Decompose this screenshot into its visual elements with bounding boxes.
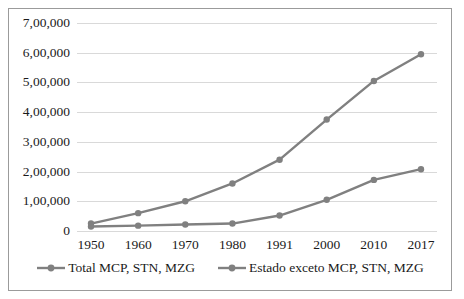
data-point-marker xyxy=(324,197,330,203)
y-axis-tick-label: 4,00,000 xyxy=(23,105,70,119)
data-point-marker xyxy=(371,78,377,84)
series-2 xyxy=(88,166,424,230)
legend-label: Estado exceto MCP, STN, MZG xyxy=(249,261,424,275)
data-point-marker xyxy=(276,212,282,218)
x-axis-tick-label: 2017 xyxy=(408,238,435,252)
y-axis-tick-label: 1,00,000 xyxy=(23,195,70,209)
x-axis-tick-label: 2000 xyxy=(313,238,340,252)
data-point-marker xyxy=(88,223,94,229)
x-axis-tick-label: 1980 xyxy=(219,238,246,252)
data-point-marker xyxy=(182,221,188,227)
chart-legend: Total MCP, STN, MZGEstado exceto MCP, ST… xyxy=(9,261,451,275)
data-point-marker xyxy=(371,177,377,183)
data-point-marker xyxy=(418,51,424,57)
data-point-marker xyxy=(182,198,188,204)
legend-marker-icon xyxy=(36,262,66,274)
x-axis-tick-label: 1950 xyxy=(78,238,105,252)
legend-label: Total MCP, STN, MZG xyxy=(68,261,195,275)
x-axis-tick-label: 1960 xyxy=(125,238,152,252)
y-axis-tick-label: 7,00,000 xyxy=(23,16,70,30)
chart-frame: 01,00,0002,00,0003,00,0004,00,0005,00,00… xyxy=(8,8,452,291)
data-point-marker xyxy=(135,222,141,228)
data-point-marker xyxy=(229,220,235,226)
data-point-marker xyxy=(324,116,330,122)
data-point-marker xyxy=(135,210,141,216)
series-plot xyxy=(77,23,437,231)
legend-entry-2[interactable]: Estado exceto MCP, STN, MZG xyxy=(217,261,424,275)
x-axis-tick-label: 2010 xyxy=(360,238,387,252)
data-point-marker xyxy=(418,166,424,172)
y-axis-tick-label: 6,00,000 xyxy=(23,46,70,60)
x-axis-tick-label: 1991 xyxy=(266,238,293,252)
y-axis-tick-label: 0 xyxy=(63,224,70,238)
legend-entry-1[interactable]: Total MCP, STN, MZG xyxy=(36,261,195,275)
series-1 xyxy=(88,51,424,227)
data-point-marker xyxy=(276,156,282,162)
y-axis-tick-label: 3,00,000 xyxy=(23,135,70,149)
x-axis-tick-label: 1970 xyxy=(172,238,199,252)
gridline xyxy=(77,231,437,232)
data-point-marker xyxy=(229,180,235,186)
y-axis-tick-label: 2,00,000 xyxy=(23,165,70,179)
plot-area: 01,00,0002,00,0003,00,0004,00,0005,00,00… xyxy=(77,23,437,231)
y-axis-tick-label: 5,00,000 xyxy=(23,76,70,90)
legend-marker-icon xyxy=(217,262,247,274)
